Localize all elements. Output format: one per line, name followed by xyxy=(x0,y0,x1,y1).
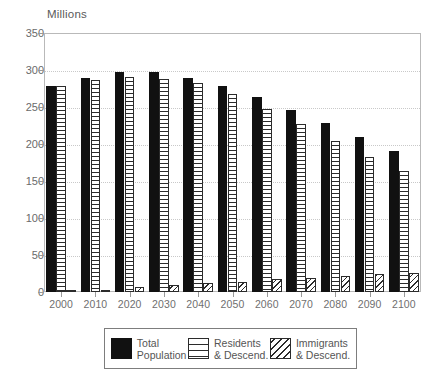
x-tick-mark xyxy=(370,292,371,297)
legend-label-line1: Immigrants xyxy=(296,337,348,349)
bar-immigrants-descend xyxy=(409,273,419,292)
legend-label: TotalPopulation xyxy=(137,337,187,361)
x-tick-label: 2000 xyxy=(49,298,73,310)
x-tick-label: 2090 xyxy=(358,298,382,310)
x-tick-mark xyxy=(301,292,302,297)
x-tick-mark xyxy=(335,292,336,297)
bar-group xyxy=(215,33,249,292)
legend-label-line2: & Descend. xyxy=(296,349,350,361)
bar-residents-descend xyxy=(228,94,238,292)
bar-residents-descend xyxy=(91,80,101,292)
x-tick-label: 2020 xyxy=(118,298,142,310)
x-tick-label: 2030 xyxy=(152,298,176,310)
x-tick-mark xyxy=(61,292,62,297)
bar-total-population xyxy=(81,78,91,292)
bar-residents-descend xyxy=(262,109,272,292)
bar-total-population xyxy=(183,78,193,292)
x-axis-labels: 2000201020202030204020502060207020802090… xyxy=(44,298,421,314)
bar-group xyxy=(78,33,112,292)
bar-immigrants-descend xyxy=(203,283,213,292)
bar-group xyxy=(44,33,78,292)
x-tick-mark xyxy=(164,292,165,297)
bar-group xyxy=(387,33,421,292)
x-tick-mark xyxy=(198,292,199,297)
bar-residents-descend xyxy=(159,79,169,292)
x-tick-mark xyxy=(95,292,96,297)
bar-residents-descend xyxy=(56,86,66,292)
x-tick-label: 2070 xyxy=(289,298,313,310)
legend-item-residents-descend: Residents& Descend. xyxy=(188,337,268,361)
bar-group xyxy=(318,33,352,292)
bar-residents-descend xyxy=(399,171,409,292)
legend-label-line2: & Descend. xyxy=(214,349,268,361)
bar-total-population xyxy=(355,137,365,292)
solid-black-swatch-icon xyxy=(111,338,132,359)
bar-residents-descend xyxy=(193,83,203,292)
legend-label: Residents& Descend. xyxy=(214,337,268,361)
bar-group xyxy=(181,33,215,292)
diagonal-hatch-swatch-icon xyxy=(270,338,291,359)
x-tick-label: 2050 xyxy=(221,298,245,310)
bar-immigrants-descend xyxy=(341,276,351,292)
bar-total-population xyxy=(252,97,262,292)
legend-label: Immigrants& Descend. xyxy=(296,337,350,361)
bar-immigrants-descend xyxy=(238,282,248,292)
x-tick-label: 2010 xyxy=(84,298,108,310)
bar-total-population xyxy=(218,86,228,292)
bar-immigrants-descend xyxy=(169,285,179,292)
bar-residents-descend xyxy=(331,141,341,292)
bar-total-population xyxy=(115,72,125,292)
bar-immigrants-descend xyxy=(375,274,385,292)
legend-label-line2: Population xyxy=(137,349,187,361)
x-tick-mark xyxy=(233,292,234,297)
legend-item-immigrants-descend: Immigrants& Descend. xyxy=(270,337,350,361)
legend-item-total-population: TotalPopulation xyxy=(111,337,187,361)
bar-total-population xyxy=(46,86,56,292)
bar-group xyxy=(284,33,318,292)
bar-total-population xyxy=(286,110,296,292)
y-axis-unit-title: Millions xyxy=(47,8,87,20)
bar-group xyxy=(250,33,284,292)
bar-immigrants-descend xyxy=(306,278,316,292)
y-axis: 050100150200250300350 xyxy=(0,33,44,292)
x-tick-mark xyxy=(267,292,268,297)
chart-legend: TotalPopulationResidents& Descend.Immigr… xyxy=(104,328,357,369)
bars-layer xyxy=(44,33,421,292)
bar-residents-descend xyxy=(296,124,306,292)
x-tick-label: 2080 xyxy=(323,298,347,310)
bar-total-population xyxy=(389,151,399,292)
x-tick-label: 2100 xyxy=(392,298,416,310)
bar-immigrants-descend xyxy=(272,279,282,292)
horizontal-hatch-swatch-icon xyxy=(188,338,209,359)
population-projection-bar-chart: Millions 050100150200250300350 200020102… xyxy=(0,0,437,382)
bar-residents-descend xyxy=(365,157,375,292)
legend-label-line1: Residents xyxy=(214,337,261,349)
bar-group xyxy=(113,33,147,292)
bar-residents-descend xyxy=(125,77,135,292)
bar-total-population xyxy=(149,72,159,292)
x-tick-mark xyxy=(130,292,131,297)
x-tick-label: 2040 xyxy=(186,298,210,310)
bar-group xyxy=(147,33,181,292)
bar-group xyxy=(352,33,386,292)
x-tick-label: 2060 xyxy=(255,298,279,310)
bar-total-population xyxy=(321,123,331,292)
x-tick-mark xyxy=(404,292,405,297)
legend-label-line1: Total xyxy=(137,337,159,349)
